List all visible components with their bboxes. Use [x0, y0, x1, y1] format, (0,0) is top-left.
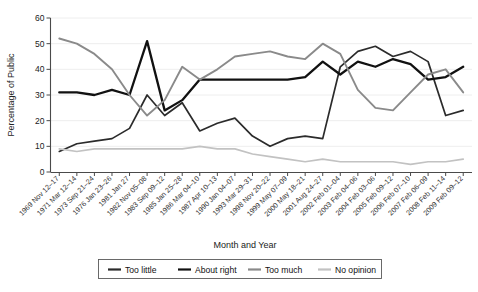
y-tick-label: 40 — [35, 64, 45, 74]
y-tick-label: 10 — [35, 141, 45, 151]
y-tick-label: 0 — [40, 167, 45, 177]
legend-label-too-much: Too much — [265, 265, 302, 275]
series-line-too-much — [59, 39, 463, 116]
y-tick-label: 60 — [35, 13, 45, 23]
legend-label-no-opinion: No opinion — [335, 265, 376, 275]
line-chart: 0102030405060 Percentage of Public 1969 … — [0, 0, 478, 292]
legend-label-about-right: About right — [195, 265, 237, 275]
y-axis-ticks: 0102030405060 — [35, 13, 50, 177]
legend-label-too-little: Too little — [125, 265, 157, 275]
y-tick-label: 20 — [35, 116, 45, 126]
chart-canvas: 0102030405060 Percentage of Public 1969 … — [0, 0, 478, 292]
series-line-no-opinion — [59, 146, 463, 164]
chart-legend: Too littleAbout rightToo muchNo opinion — [99, 260, 382, 279]
data-series-group — [59, 39, 463, 165]
x-axis-tick-labels: 1969 Nov 12–171971 Mar 12–141973 Sep 21–… — [17, 174, 465, 218]
y-tick-label: 30 — [35, 90, 45, 100]
gridlines — [51, 18, 473, 146]
x-axis-title: Month and Year — [213, 240, 276, 250]
y-tick-label: 50 — [35, 39, 45, 49]
y-axis-title: Percentage of Public — [6, 53, 16, 137]
